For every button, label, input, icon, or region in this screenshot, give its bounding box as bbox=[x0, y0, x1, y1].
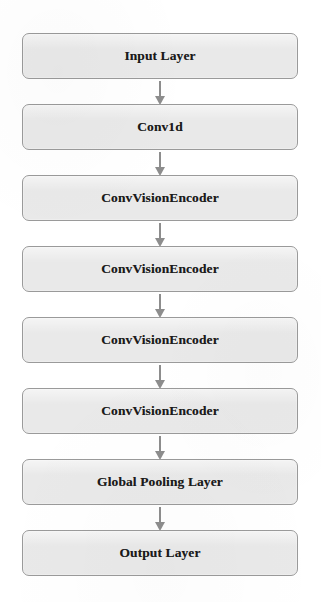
flowchart-node-conv-vision-encoder-1[interactable]: ConvVisionEncoder bbox=[22, 175, 298, 221]
flowchart-node-output-layer[interactable]: Output Layer bbox=[22, 530, 298, 576]
node-label: ConvVisionEncoder bbox=[101, 190, 218, 206]
node-label: Output Layer bbox=[119, 545, 200, 561]
node-label: ConvVisionEncoder bbox=[101, 332, 218, 348]
flowchart-node-conv-vision-encoder-4[interactable]: ConvVisionEncoder bbox=[22, 388, 298, 434]
flow-arrow-down-icon bbox=[158, 223, 162, 247]
node-label: ConvVisionEncoder bbox=[101, 403, 218, 419]
architecture-flowchart: Input Layer Conv1d ConvVisionEncoder Con… bbox=[0, 0, 321, 602]
flow-arrow-down-icon bbox=[158, 81, 162, 105]
flowchart-node-global-pooling-layer[interactable]: Global Pooling Layer bbox=[22, 459, 298, 505]
flowchart-node-input-layer[interactable]: Input Layer bbox=[22, 33, 298, 79]
flow-arrow-down-icon bbox=[158, 507, 162, 531]
flow-arrow-down-icon bbox=[158, 294, 162, 318]
flow-arrow-down-icon bbox=[158, 152, 162, 176]
node-label: Input Layer bbox=[124, 48, 195, 64]
flowchart-node-conv-vision-encoder-2[interactable]: ConvVisionEncoder bbox=[22, 246, 298, 292]
node-label: Global Pooling Layer bbox=[97, 474, 223, 490]
node-label: Conv1d bbox=[137, 119, 183, 135]
flow-arrow-down-icon bbox=[158, 365, 162, 389]
flowchart-node-conv1d[interactable]: Conv1d bbox=[22, 104, 298, 150]
flow-arrow-down-icon bbox=[158, 436, 162, 460]
node-label: ConvVisionEncoder bbox=[101, 261, 218, 277]
flowchart-node-conv-vision-encoder-3[interactable]: ConvVisionEncoder bbox=[22, 317, 298, 363]
